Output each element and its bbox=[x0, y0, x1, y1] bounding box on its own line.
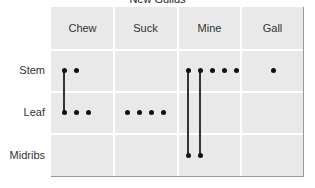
connector-line bbox=[199, 70, 201, 155]
guild-dot bbox=[222, 68, 227, 73]
guild-dot bbox=[125, 110, 130, 115]
row-label-midribs: Midribs bbox=[0, 149, 45, 161]
guild-dot bbox=[62, 110, 67, 115]
row-label-leaf: Leaf bbox=[0, 106, 45, 118]
connector-line bbox=[63, 70, 65, 112]
guild-dot bbox=[137, 110, 142, 115]
column-header-mine: Mine bbox=[178, 7, 241, 50]
guild-dot bbox=[149, 110, 154, 115]
grid-divider bbox=[51, 91, 303, 93]
guild-dot bbox=[86, 110, 91, 115]
guild-dot bbox=[234, 68, 239, 73]
guild-grid: Chew Suck Mine Gall bbox=[51, 7, 304, 177]
guild-dot bbox=[62, 68, 67, 73]
guild-dot bbox=[186, 153, 191, 158]
guild-dot bbox=[161, 110, 166, 115]
connector-line bbox=[187, 70, 189, 155]
guild-dot bbox=[198, 68, 203, 73]
column-header-suck: Suck bbox=[114, 7, 177, 50]
guild-dot bbox=[186, 68, 191, 73]
guild-dot bbox=[198, 153, 203, 158]
diagram-title: New Guilds bbox=[0, 0, 315, 5]
guild-dot bbox=[74, 68, 79, 73]
guild-dot bbox=[271, 68, 276, 73]
guild-dot bbox=[210, 68, 215, 73]
column-header-chew: Chew bbox=[51, 7, 114, 50]
column-header-gall: Gall bbox=[241, 7, 304, 50]
row-label-stem: Stem bbox=[0, 64, 45, 76]
grid-divider bbox=[51, 133, 303, 135]
guild-dot bbox=[74, 110, 79, 115]
